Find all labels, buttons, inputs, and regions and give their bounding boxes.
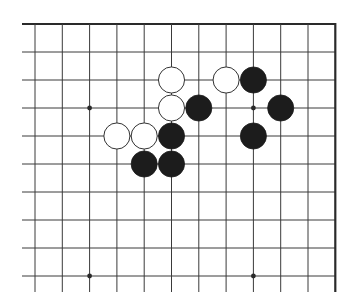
star-point-icon xyxy=(251,106,256,111)
white-stone xyxy=(158,95,184,121)
star-point-icon xyxy=(87,106,92,111)
go-board[interactable] xyxy=(0,0,358,307)
black-stone xyxy=(186,95,212,121)
black-stone xyxy=(268,95,294,121)
star-point-icon xyxy=(87,274,92,279)
black-stone xyxy=(131,151,157,177)
white-stone xyxy=(213,67,239,93)
white-stone xyxy=(104,123,130,149)
white-stone xyxy=(158,67,184,93)
black-stone xyxy=(240,67,266,93)
black-stone xyxy=(158,151,184,177)
white-stone xyxy=(131,123,157,149)
black-stone xyxy=(240,123,266,149)
black-stone xyxy=(158,123,184,149)
star-point-icon xyxy=(251,274,256,279)
